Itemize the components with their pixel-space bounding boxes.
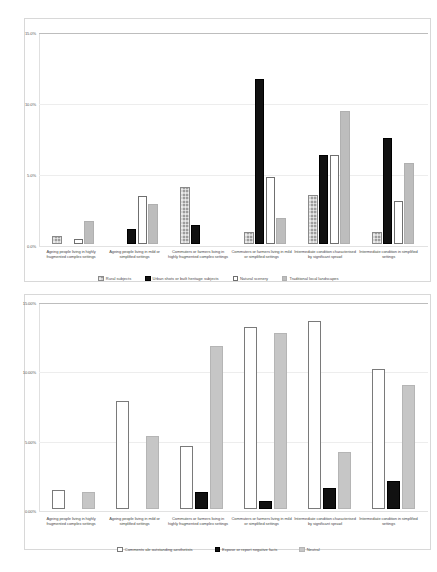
- legend-label: Traditional local landscapes: [289, 276, 338, 281]
- category-label: Intermediate condition in simplified set…: [358, 516, 420, 526]
- legend-item[interactable]: Urban shots or built heritage subjects: [145, 276, 218, 281]
- bar-rural-subjects[interactable]: [244, 232, 254, 244]
- bar-comments-ale-outstanding-aesthetists[interactable]: [244, 327, 257, 509]
- category-label: Intermediate condition in simplified set…: [358, 249, 420, 259]
- legend-swatch-icon: [145, 276, 150, 281]
- legend-label: Urban shots or built heritage subjects: [153, 276, 219, 281]
- bar-traditional-local-landscapes[interactable]: [276, 218, 286, 244]
- legend-item[interactable]: Comments ale outstanding aesthetists: [117, 547, 192, 552]
- bar-neutral[interactable]: [402, 385, 415, 509]
- bar-traditional-local-landscapes[interactable]: [340, 111, 350, 244]
- bar-rural-subjects[interactable]: [52, 236, 62, 244]
- bar-comments-ale-outstanding-aesthetists[interactable]: [308, 321, 321, 509]
- legend-label: Comments ale outstanding aesthetists: [125, 547, 193, 552]
- bar-rural-subjects[interactable]: [308, 195, 318, 244]
- bar-expose-or-report-negative-facts[interactable]: [387, 481, 400, 509]
- category-label: Ageing people living in mild or simplifi…: [104, 516, 166, 526]
- upper-chart-frame: 0.0%5.0%10.0%15.0%: [24, 18, 431, 282]
- legend-swatch-icon: [233, 276, 238, 281]
- bar-rural-subjects[interactable]: [372, 232, 382, 244]
- upper-plot-area: 0.0%5.0%10.0%15.0%: [25, 19, 430, 281]
- bar-group: [41, 221, 105, 244]
- bar-neutral[interactable]: [82, 492, 95, 509]
- bar-neutral[interactable]: [146, 436, 159, 509]
- lower-bars-layer: [25, 295, 430, 549]
- bar-group: [169, 346, 233, 509]
- bar-comments-ale-outstanding-aesthetists[interactable]: [180, 446, 193, 509]
- bar-traditional-local-landscapes[interactable]: [148, 204, 158, 244]
- category-label: Commuters or farmers living in highly fr…: [167, 249, 229, 259]
- bar-group: [297, 321, 361, 509]
- bar-expose-or-report-negative-facts[interactable]: [259, 501, 272, 509]
- bar-natural-scenery[interactable]: [74, 239, 84, 244]
- lower-chart-frame: 0.00%5.00%10.00%15.00%: [24, 294, 431, 550]
- bar-urban-shots-or-built-heritage-subjects[interactable]: [319, 155, 329, 244]
- upper-bar-chart: 0.0%5.0%10.0%15.0% Ageing people living …: [0, 0, 437, 290]
- category-label: Commuters or farmers living in mild or s…: [231, 249, 293, 259]
- bar-traditional-local-landscapes[interactable]: [404, 163, 414, 244]
- bar-group: [169, 187, 233, 245]
- category-label: Intermediate condition characterised by …: [294, 249, 356, 259]
- legend-item[interactable]: Expose or report negative facts: [215, 547, 278, 552]
- bar-comments-ale-outstanding-aesthetists[interactable]: [52, 490, 65, 509]
- bar-group: [105, 401, 169, 509]
- bar-natural-scenery[interactable]: [266, 177, 276, 244]
- category-label: Ageing people living in highly fragmente…: [40, 249, 102, 259]
- category-label: Ageing people living in highly fragmente…: [40, 516, 102, 526]
- upper-bars-layer: [25, 19, 430, 281]
- legend-label: Natural scenery: [240, 276, 268, 281]
- bar-comments-ale-outstanding-aesthetists[interactable]: [372, 369, 385, 509]
- category-label: Commuters or farmers living in highly fr…: [167, 516, 229, 526]
- bar-expose-or-report-negative-facts[interactable]: [323, 488, 336, 509]
- bar-group: [361, 369, 425, 509]
- legend-item[interactable]: Rural subjects: [98, 276, 131, 281]
- bar-group: [361, 138, 425, 245]
- bar-natural-scenery[interactable]: [330, 155, 340, 244]
- category-label: Ageing people living in mild or simplifi…: [104, 249, 166, 259]
- bar-group: [41, 490, 105, 509]
- bar-group: [233, 327, 297, 509]
- legend-label: Rural subjects: [106, 276, 131, 281]
- bar-natural-scenery[interactable]: [394, 201, 404, 244]
- legend-swatch-icon: [299, 547, 304, 552]
- upper-legend: Rural subjectsUrban shots or built herit…: [0, 276, 437, 281]
- bar-group: [105, 196, 169, 244]
- bar-urban-shots-or-built-heritage-subjects[interactable]: [383, 138, 393, 245]
- legend-label: Expose or report negative facts: [222, 547, 277, 552]
- bar-urban-shots-or-built-heritage-subjects[interactable]: [255, 79, 265, 244]
- category-label: Commuters or farmers living in mild or s…: [231, 516, 293, 526]
- bar-group: [233, 79, 297, 244]
- category-label: Intermediate condition characterised by …: [294, 516, 356, 526]
- legend-label: Neutral: [307, 547, 320, 552]
- bar-neutral[interactable]: [274, 333, 287, 509]
- legend-swatch-icon: [98, 276, 103, 281]
- lower-legend: Comments ale outstanding aesthetistsExpo…: [0, 547, 437, 552]
- lower-bar-chart: 0.00%5.00%10.00%15.00% Ageing people liv…: [0, 290, 437, 572]
- legend-item[interactable]: Neutral: [299, 547, 319, 552]
- legend-swatch-icon: [282, 276, 287, 281]
- bar-natural-scenery[interactable]: [138, 196, 148, 244]
- legend-item[interactable]: Traditional local landscapes: [282, 276, 339, 281]
- bar-comments-ale-outstanding-aesthetists[interactable]: [116, 401, 129, 509]
- legend-swatch-icon: [215, 547, 220, 552]
- bar-rural-subjects[interactable]: [180, 187, 190, 245]
- lower-plot-area: 0.00%5.00%10.00%15.00%: [25, 295, 430, 549]
- bar-neutral[interactable]: [210, 346, 223, 509]
- bar-expose-or-report-negative-facts[interactable]: [195, 492, 208, 509]
- bar-neutral[interactable]: [338, 452, 351, 509]
- bar-group: [297, 111, 361, 244]
- bar-urban-shots-or-built-heritage-subjects[interactable]: [191, 225, 201, 244]
- legend-item[interactable]: Natural scenery: [233, 276, 268, 281]
- bar-traditional-local-landscapes[interactable]: [84, 221, 94, 244]
- legend-swatch-icon: [117, 547, 122, 552]
- bar-urban-shots-or-built-heritage-subjects[interactable]: [127, 229, 137, 244]
